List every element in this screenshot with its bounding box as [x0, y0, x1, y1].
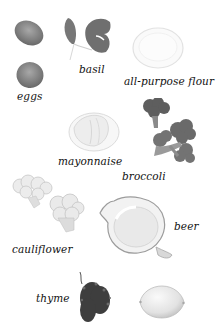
cauliflower-label: cauliflower [12, 243, 73, 255]
lemon-illustration [138, 284, 186, 320]
thyme-label: thyme [36, 292, 70, 304]
cauliflower-illustration [12, 174, 88, 236]
basil-label: basil [79, 63, 105, 75]
mayonnaise-illustration [66, 108, 122, 154]
mayonnaise-label: mayonnaise [58, 155, 122, 167]
thyme-sprig-icon [74, 270, 116, 323]
cauliflower-icon [12, 174, 88, 236]
eggs-illustration [12, 18, 48, 100]
thyme-illustration [74, 270, 116, 323]
lemon-icon [138, 284, 186, 320]
beer-pitcher-icon [98, 195, 178, 263]
broccoli-label: broccoli [122, 170, 166, 182]
mayonnaise-bowl-icon [66, 108, 122, 154]
flour-label: all-purpose flour [124, 75, 214, 87]
beer-label: beer [174, 220, 199, 232]
broccoli-illustration [140, 98, 196, 164]
eggs-label: eggs [17, 90, 42, 102]
basil-leaf-icon [60, 14, 112, 66]
flour-illustration [130, 26, 186, 72]
ingredients-illustration-page: eggs basil all-purpose flour mayonnaise [0, 0, 218, 323]
beer-illustration [98, 195, 178, 263]
flour-bowl-icon [130, 26, 186, 72]
basil-illustration [60, 14, 112, 66]
egg-icon [12, 18, 48, 100]
broccoli-icon [140, 98, 196, 164]
